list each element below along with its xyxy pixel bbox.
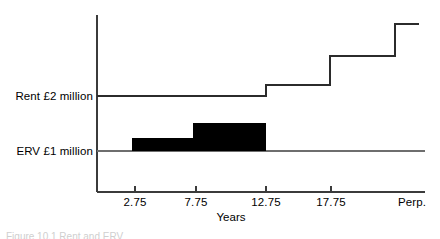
y-axis-label-erv: ERV £1 million bbox=[16, 145, 93, 157]
figure-caption-fragment: Figure 10.1 Rent and ERV bbox=[6, 231, 186, 239]
step-chart-plot bbox=[0, 0, 440, 239]
x-axis-title-text: Years bbox=[217, 211, 246, 223]
erv-bar-1 bbox=[132, 138, 193, 151]
x-axis-ticks bbox=[135, 186, 331, 192]
x-tick-label-2: 7.75 bbox=[185, 196, 208, 209]
rent-step-line bbox=[97, 24, 419, 96]
x-tick-label-5: Perp. bbox=[398, 196, 426, 209]
erv-bar-2 bbox=[193, 123, 266, 151]
x-tick-label-1: 2.75 bbox=[124, 196, 147, 209]
x-tick-label-4: 17.75 bbox=[316, 196, 345, 209]
y-axis-label-rent: Rent £2 million bbox=[15, 90, 93, 102]
x-axis-title: Years bbox=[0, 211, 440, 224]
figure-container: Rent £2 million ERV £1 million 2.75 7.75… bbox=[0, 0, 440, 239]
x-tick-label-3: 12.75 bbox=[251, 196, 280, 209]
